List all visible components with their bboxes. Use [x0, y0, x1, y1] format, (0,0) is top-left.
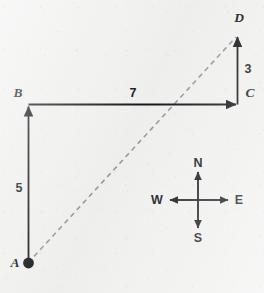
compass-label-west: W [151, 194, 163, 207]
point-label-B: B [13, 86, 22, 100]
point-label-A: A [10, 256, 19, 270]
diagram-figure: A B C D 5 7 3 N E S W [0, 0, 264, 293]
compass-label-east: E [235, 194, 243, 207]
compass-label-south: S [194, 232, 202, 245]
segment-length-BC: 7 [130, 87, 137, 100]
point-label-D: D [234, 11, 244, 25]
diagram-canvas [0, 0, 264, 293]
segment-length-AB: 5 [16, 182, 23, 195]
point-A-marker [23, 258, 34, 269]
segment-length-CD: 3 [245, 63, 252, 76]
compass-label-north: N [193, 157, 202, 170]
point-label-C: C [245, 86, 254, 100]
segment-AD-dashed [28, 37, 236, 263]
